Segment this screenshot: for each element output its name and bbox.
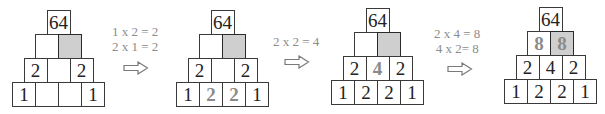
step-3-equations: 2 x 4 = 84 x 2= 8 (434, 26, 480, 56)
pyramid-cell: 64 (539, 7, 563, 32)
step-2-equations: 2 x 2 = 4 (273, 34, 319, 49)
pyramid-cell: 2 (550, 79, 574, 104)
pyramid-cell (58, 82, 82, 107)
pyramid-cell: 2 (222, 82, 246, 107)
pyramid-cell: 8 (527, 31, 551, 56)
equation-line: 2 x 2 = 4 (273, 34, 319, 49)
pyramid-cell: 2 (389, 56, 413, 81)
pyramid-cell: 4 (366, 56, 390, 81)
pyramid-cell: 2 (188, 58, 212, 83)
pyramid-cell-shaded (222, 34, 246, 59)
pyramid-cell: 4 (539, 55, 563, 80)
pyramid-cell: 2 (516, 55, 540, 80)
pyramid-cell-shaded (377, 32, 401, 57)
equation-line: 2 x 4 = 8 (434, 26, 480, 41)
pyramid-cell (35, 82, 59, 107)
arrow-right-icon (284, 55, 310, 69)
pyramid-cell (35, 34, 59, 59)
arrow-right-icon (123, 61, 149, 75)
pyramid-cell: 2 (527, 79, 551, 104)
pyramid-cell (47, 58, 71, 83)
step-1-equations: 1 x 2 = 22 x 1 = 2 (112, 24, 158, 54)
pyramid-cell-shaded: 8 (550, 31, 574, 56)
pyramid-cell: 2 (234, 58, 258, 83)
pyramid-cell: 1 (245, 82, 269, 107)
pyramid-cell (354, 32, 378, 57)
equation-line: 1 x 2 = 2 (112, 24, 158, 39)
equation-line: 2 x 1 = 2 (112, 39, 158, 54)
pyramid-cell: 64 (211, 10, 235, 35)
pyramid-cell: 1 (176, 82, 200, 107)
pyramid-cell: 2 (24, 58, 48, 83)
pyramid-cell: 2 (70, 58, 94, 83)
pyramid-cell (211, 58, 235, 83)
pyramid-cell: 1 (81, 82, 105, 107)
arrow-right-icon (447, 62, 473, 76)
pyramid-cell: 2 (354, 80, 378, 105)
pyramid-cell: 2 (377, 80, 401, 105)
pyramid-cell-shaded (58, 34, 82, 59)
pyramid-cell: 2 (199, 82, 223, 107)
pyramid-cell: 1 (400, 80, 424, 105)
pyramid-cell: 1 (331, 80, 355, 105)
pyramid-cell (199, 34, 223, 59)
pyramid-cell: 64 (366, 8, 390, 33)
pyramid-cell: 1 (504, 79, 528, 104)
pyramid-cell: 2 (562, 55, 586, 80)
pyramid-cell: 2 (343, 56, 367, 81)
pyramid-cell: 1 (12, 82, 36, 107)
pyramid-cell: 1 (573, 79, 597, 104)
equation-line: 4 x 2= 8 (434, 41, 480, 56)
pyramid-cell: 64 (47, 10, 71, 35)
